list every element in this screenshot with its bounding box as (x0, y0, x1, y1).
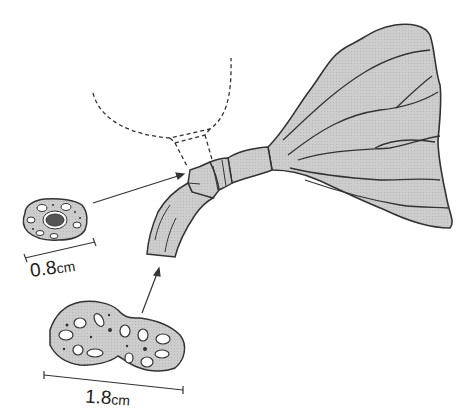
large-section-value: 1.8 (84, 385, 112, 408)
small-section-value: 0.8 (29, 257, 58, 281)
diagram-canvas (0, 0, 468, 414)
stem (147, 147, 272, 257)
small-cross-section (23, 199, 96, 262)
fan-body (268, 24, 452, 228)
large-cross-section (44, 301, 185, 394)
large-section-scale-label: 1.8cm (84, 385, 131, 410)
dashed-outline (93, 58, 231, 168)
large-section-unit: cm (111, 391, 131, 408)
small-section-unit: cm (55, 258, 76, 276)
